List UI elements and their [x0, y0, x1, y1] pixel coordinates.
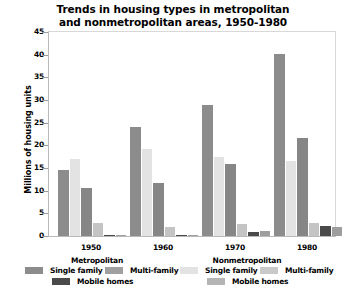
legend-label: Mobile homes: [77, 277, 133, 286]
x-axis-tick-label: 1980: [277, 243, 337, 252]
legend-entry[interactable]: Multi-family: [105, 266, 178, 275]
bars-layer: [49, 32, 335, 236]
legend-label: Multi-family: [130, 266, 178, 275]
chart-title-line-2: and nonmetropolitan areas, 1950-1980: [0, 16, 346, 29]
bar: [332, 227, 343, 236]
y-axis-tick-label: 40: [20, 51, 44, 59]
legend-swatch: [180, 267, 198, 274]
y-axis-tick-label: 30: [20, 96, 44, 104]
y-axis-tick-label: 35: [20, 73, 44, 81]
bar: [202, 105, 213, 236]
chart-figure: Trends in housing types in metropolitan …: [0, 0, 346, 290]
bar: [260, 231, 271, 236]
legend-group-title: Metropolitan: [71, 256, 123, 265]
bar: [116, 235, 127, 236]
bar: [274, 54, 285, 236]
y-axis-tick-label: 10: [20, 187, 44, 195]
bar: [130, 127, 141, 236]
legend-entry[interactable]: Mobile homes: [52, 277, 133, 286]
bar: [237, 224, 248, 236]
legend-label: Single family: [50, 266, 103, 275]
legend-swatch: [25, 267, 43, 274]
bar: [176, 235, 187, 236]
x-axis-tick-label: 1970: [205, 243, 265, 252]
legend-entry[interactable]: Single family: [25, 266, 103, 275]
plot-area: [48, 31, 336, 237]
legend-label: Multi-family: [285, 266, 333, 275]
legend-swatch: [260, 267, 278, 274]
y-axis-tick-label: 20: [20, 141, 44, 149]
legend-label: Single family: [205, 266, 258, 275]
x-axis-tick-label: 1960: [133, 243, 193, 252]
legend-swatch: [105, 267, 123, 274]
chart-title-line-1: Trends in housing types in metropolitan: [0, 3, 346, 16]
y-axis-tick-label: 45: [20, 28, 44, 36]
bar: [142, 149, 153, 236]
bar: [309, 223, 320, 236]
bar: [104, 235, 115, 236]
y-axis-tick-label: 0: [20, 232, 44, 240]
bar: [58, 170, 69, 236]
bar: [81, 188, 92, 237]
legend-entry[interactable]: Mobile homes: [207, 277, 288, 286]
y-axis-tick-label: 5: [20, 209, 44, 217]
bar: [188, 235, 199, 236]
legend-swatch: [207, 278, 225, 285]
chart-title: Trends in housing types in metropolitan …: [0, 3, 346, 29]
bar: [153, 183, 164, 236]
legend-label: Mobile homes: [232, 277, 288, 286]
bar: [320, 226, 331, 236]
bar: [297, 138, 308, 236]
legend-swatch: [52, 278, 70, 285]
bar: [286, 161, 297, 236]
legend-group-title: Nonmetropolitan: [213, 256, 282, 265]
bar: [93, 223, 104, 236]
y-axis-tick-label: 15: [20, 164, 44, 172]
legend-entry[interactable]: Single family: [180, 266, 258, 275]
legend-entry[interactable]: Multi-family: [260, 266, 333, 275]
bar: [225, 164, 236, 236]
bar: [214, 157, 225, 236]
x-axis-tick-label: 1950: [61, 243, 121, 252]
y-axis-tick-label: 25: [20, 119, 44, 127]
bar: [248, 232, 259, 236]
bar: [165, 227, 176, 236]
bar: [70, 159, 81, 236]
